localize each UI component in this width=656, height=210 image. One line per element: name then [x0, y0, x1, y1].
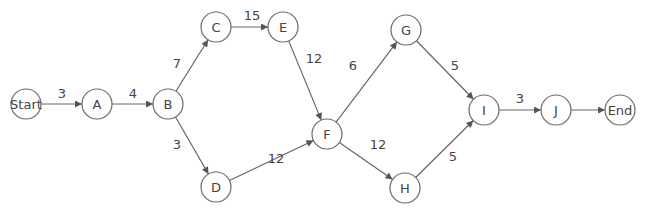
node-label: A [93, 97, 102, 112]
edge-weight-label: 5 [449, 149, 457, 164]
edge-weight-label: 3 [516, 91, 524, 106]
node-label: G [401, 23, 411, 38]
node-h: H [390, 173, 420, 203]
edge-weight-label: 7 [173, 56, 181, 71]
node-label: End [608, 103, 633, 118]
arrow-icon [336, 42, 397, 122]
node-d: D [201, 172, 231, 202]
node-label: I [482, 103, 486, 118]
node-i: I [469, 95, 499, 125]
node-label: D [211, 180, 221, 195]
node-end: End [605, 95, 635, 125]
arrow-icon [416, 41, 473, 100]
arrow-icon [416, 121, 474, 178]
node-label: F [323, 127, 330, 142]
edge-weight-label: 4 [129, 86, 137, 101]
nodes-layer: StartABCEDFGHIJEnd [10, 12, 635, 203]
edge-weight-label: 3 [58, 86, 66, 101]
node-start: Start [10, 89, 42, 119]
edge-weight-label: 12 [370, 137, 387, 152]
edge-f-to-g [336, 42, 397, 122]
edge-g-to-i [416, 41, 473, 100]
edge-weight-label: 5 [451, 58, 459, 73]
edge-weight-label: 3 [173, 137, 181, 152]
edge-h-to-i [416, 121, 474, 178]
node-label: H [400, 181, 410, 196]
edge-weight-label: 6 [349, 58, 357, 73]
node-j: J [541, 95, 571, 125]
node-label: B [164, 97, 173, 112]
edge-weight-label: 15 [244, 8, 261, 23]
edge-weight-label: 12 [306, 51, 323, 66]
node-g: G [391, 15, 421, 45]
node-label: Start [10, 97, 42, 112]
node-c: C [201, 12, 231, 42]
node-label: J [553, 103, 558, 118]
network-diagram: 3473151212612553 StartABCEDFGHIJEnd [0, 0, 656, 210]
node-f: F [312, 119, 342, 149]
node-e: E [268, 12, 298, 42]
node-a: A [82, 89, 112, 119]
node-b: B [153, 89, 183, 119]
node-label: E [279, 20, 287, 35]
node-label: C [211, 20, 220, 35]
edge-weight-label: 12 [268, 151, 285, 166]
